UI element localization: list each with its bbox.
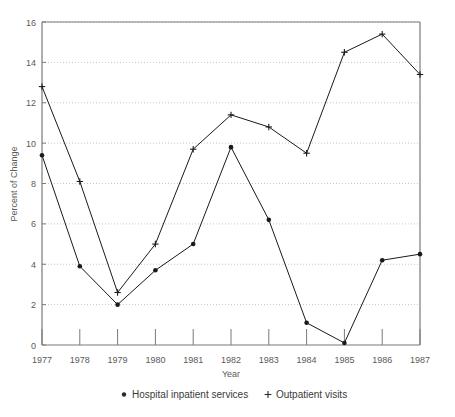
x-tick-label-1984: 1984 — [297, 355, 317, 365]
x-tick-label-1979: 1979 — [108, 355, 128, 365]
x-axis-title: Year — [222, 369, 240, 379]
line-chart: 0246810121416 19771978197919801981198219… — [0, 0, 455, 417]
data-point — [153, 268, 158, 273]
data-point — [40, 153, 45, 158]
data-point — [229, 145, 234, 150]
y-tick-label-16: 16 — [26, 18, 36, 28]
legend-label: Outpatient visits — [276, 389, 347, 400]
legend-item-outpatient: Outpatient visits — [265, 389, 348, 400]
data-point — [380, 258, 385, 263]
chart-container: 0246810121416 19771978197919801981198219… — [0, 0, 455, 417]
x-tick-label-1980: 1980 — [145, 355, 165, 365]
y-tick-label-2: 2 — [31, 300, 36, 310]
chart-legend: Hospital inpatient servicesOutpatient vi… — [122, 389, 347, 400]
y-tick-label-8: 8 — [31, 179, 36, 189]
data-point — [342, 341, 347, 346]
y-tick-label-10: 10 — [26, 139, 36, 149]
legend-dot-icon — [122, 392, 126, 396]
x-tick-label-1981: 1981 — [183, 355, 203, 365]
y-tick-label-4: 4 — [31, 260, 36, 270]
y-tick-label-6: 6 — [31, 219, 36, 229]
x-tick-label-1986: 1986 — [372, 355, 392, 365]
data-point — [418, 252, 423, 257]
data-point — [78, 264, 83, 269]
x-tick-label-1977: 1977 — [32, 355, 52, 365]
x-tick-label-1983: 1983 — [259, 355, 279, 365]
y-tick-label-12: 12 — [26, 98, 36, 108]
data-point — [304, 320, 309, 325]
x-tick-label-1985: 1985 — [334, 355, 354, 365]
y-tick-label-14: 14 — [26, 58, 36, 68]
x-tick-label-1982: 1982 — [221, 355, 241, 365]
y-axis-title: Percent of Change — [9, 146, 19, 221]
x-tick-label-1978: 1978 — [70, 355, 90, 365]
data-point — [191, 242, 196, 247]
legend-label: Hospital inpatient services — [132, 389, 248, 400]
y-tick-label-0: 0 — [31, 341, 36, 351]
x-tick-label-1987: 1987 — [410, 355, 430, 365]
data-point — [267, 218, 272, 223]
data-point — [115, 302, 120, 307]
legend-item-inpatient: Hospital inpatient services — [122, 389, 248, 400]
